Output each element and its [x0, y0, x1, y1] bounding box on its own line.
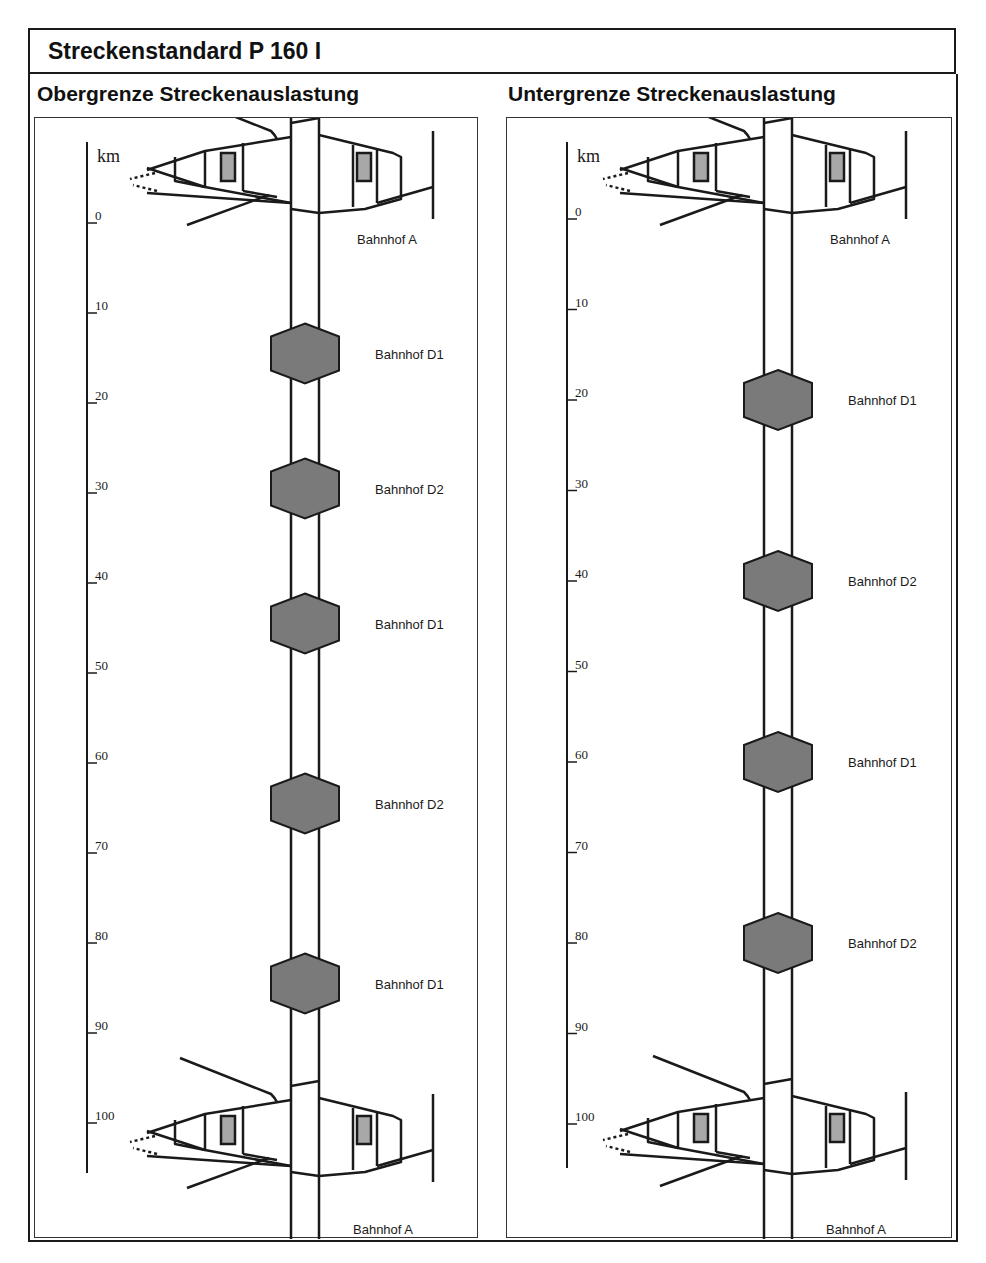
km-tick-label: 70: [95, 838, 108, 853]
track-right-branch: [850, 1148, 906, 1164]
page-title: Streckenstandard P 160 I: [48, 38, 321, 65]
diagram-content: km0102030405060708090100Bahnhof ABahnhof…: [87, 118, 444, 1239]
km-tick-label: 80: [95, 928, 108, 943]
km-tick-label: 60: [95, 748, 108, 763]
station-hexagon-icon: [744, 913, 812, 973]
station-edge: [764, 1079, 792, 1174]
platform-building-icon: [221, 153, 235, 181]
station-hexagon-icon: [744, 732, 812, 792]
station-label-bahnhof-a-bottom: Bahnhof A: [353, 1222, 413, 1237]
km-tick-label: 40: [95, 568, 108, 583]
station-label: Bahnhof D1: [848, 393, 917, 408]
station-hexagon-icon: [271, 459, 339, 519]
km-tick-label: 40: [575, 566, 588, 581]
station-label: Bahnhof D2: [848, 936, 917, 951]
branch-top-left: [180, 1058, 277, 1102]
station-label: Bahnhof D1: [375, 617, 444, 632]
platform-building-icon: [830, 1114, 844, 1142]
track-diagram-upper-limit: km0102030405060708090100Bahnhof ABahnhof…: [35, 118, 479, 1239]
track-right-branch: [377, 187, 433, 203]
platform-building-icon: [357, 153, 371, 181]
km-unit-label: km: [97, 146, 120, 166]
track-left-upper: [620, 137, 764, 170]
station-hexagon-icon: [271, 954, 339, 1014]
station-edge: [764, 118, 792, 213]
branch-top-left: [180, 118, 277, 139]
station-label: Bahnhof D1: [375, 347, 444, 362]
station-edge: [291, 118, 319, 213]
track-right-branch: [377, 1150, 433, 1166]
km-tick-label: 100: [575, 1109, 595, 1124]
platform-building-icon: [694, 1114, 708, 1142]
diagram-panel-upper-limit: km0102030405060708090100Bahnhof ABahnhof…: [34, 117, 478, 1238]
diagram-panel-lower-limit: km0102030405060708090100Bahnhof ABahnhof…: [506, 117, 952, 1238]
diagram-content: km0102030405060708090100Bahnhof ABahnhof…: [567, 118, 917, 1239]
km-tick-label: 90: [575, 1019, 588, 1034]
km-tick-label: 0: [575, 204, 582, 219]
dotted-continuation: [130, 173, 157, 191]
km-tick-label: 60: [575, 747, 588, 762]
platform-building-icon: [221, 1116, 235, 1144]
branch-top-left: [653, 118, 750, 139]
km-tick-label: 20: [575, 385, 588, 400]
km-tick-label: 80: [575, 928, 588, 943]
track-left-upper: [147, 1100, 291, 1133]
track-diagram-lower-limit: km0102030405060708090100Bahnhof ABahnhof…: [507, 118, 953, 1239]
km-tick-label: 10: [95, 298, 108, 313]
branch-top-left: [653, 1056, 750, 1100]
station-label-bahnhof-a-top: Bahnhof A: [357, 232, 417, 247]
km-tick-label: 10: [575, 295, 588, 310]
km-tick-label: 30: [95, 478, 108, 493]
km-tick-label: 90: [95, 1018, 108, 1033]
station-label-bahnhof-a-top: Bahnhof A: [830, 232, 890, 247]
platform-building-icon: [830, 153, 844, 181]
km-tick-label: 50: [575, 657, 588, 672]
station-label: Bahnhof D1: [375, 977, 444, 992]
track-right-branch: [850, 187, 906, 203]
station-edge: [291, 1081, 319, 1176]
track-left-upper: [620, 1098, 764, 1131]
dotted-continuation: [603, 1134, 630, 1152]
km-tick-label: 30: [575, 476, 588, 491]
title-box: Streckenstandard P 160 I: [28, 28, 956, 74]
station-hexagon-icon: [271, 594, 339, 654]
km-unit-label: km: [577, 146, 600, 166]
station-hexagon-icon: [744, 551, 812, 611]
dotted-continuation: [603, 173, 630, 191]
km-tick-label: 100: [95, 1108, 115, 1123]
station-label: Bahnhof D2: [848, 574, 917, 589]
km-tick-label: 20: [95, 388, 108, 403]
panel-title-upper-limit: Obergrenze Streckenauslastung: [37, 82, 359, 106]
panel-title-lower-limit: Untergrenze Streckenauslastung: [508, 82, 836, 106]
dotted-continuation: [130, 1136, 157, 1154]
station-label: Bahnhof D2: [375, 482, 444, 497]
track-left-upper: [147, 137, 291, 170]
km-tick-label: 0: [95, 208, 102, 223]
km-tick-label: 70: [575, 838, 588, 853]
platform-building-icon: [357, 1116, 371, 1144]
platform-building-icon: [694, 153, 708, 181]
station-hexagon-icon: [271, 324, 339, 384]
station-hexagon-icon: [271, 774, 339, 834]
km-tick-label: 50: [95, 658, 108, 673]
station-label: Bahnhof D1: [848, 755, 917, 770]
station-label-bahnhof-a-bottom: Bahnhof A: [826, 1222, 886, 1237]
station-label: Bahnhof D2: [375, 797, 444, 812]
station-hexagon-icon: [744, 370, 812, 430]
